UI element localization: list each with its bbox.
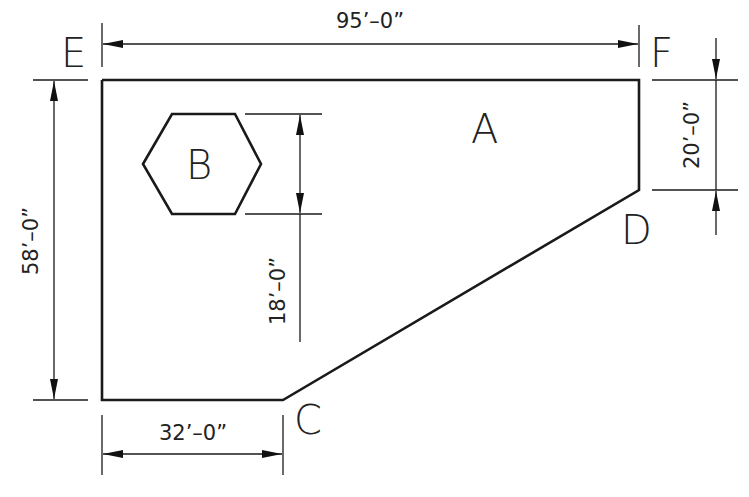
- dimension-hexagon: 18’–0”: [245, 114, 322, 342]
- dimension-left: 58’–0”: [19, 80, 88, 400]
- dimension-top: 95’–0”: [102, 9, 639, 67]
- site-plan-drawing: A B C D E F 95’–0” 58’–0” 32’–0” 20’–0”: [0, 0, 749, 497]
- label-c: C: [294, 397, 322, 443]
- dimension-bottom-text: 32’–0”: [159, 421, 227, 445]
- dimension-bottom: 32’–0”: [102, 415, 283, 475]
- dimension-top-text: 95’–0”: [336, 9, 404, 33]
- dimension-hexagon-text: 18’–0”: [266, 257, 290, 325]
- label-f: F: [650, 30, 673, 76]
- label-a: A: [471, 106, 498, 152]
- parcel-outline: [102, 80, 639, 400]
- label-b: B: [186, 142, 212, 188]
- dimension-left-text: 58’–0”: [19, 207, 43, 275]
- label-d: D: [621, 207, 652, 253]
- dimension-right-text: 20’–0”: [680, 101, 704, 169]
- label-e: E: [61, 30, 86, 76]
